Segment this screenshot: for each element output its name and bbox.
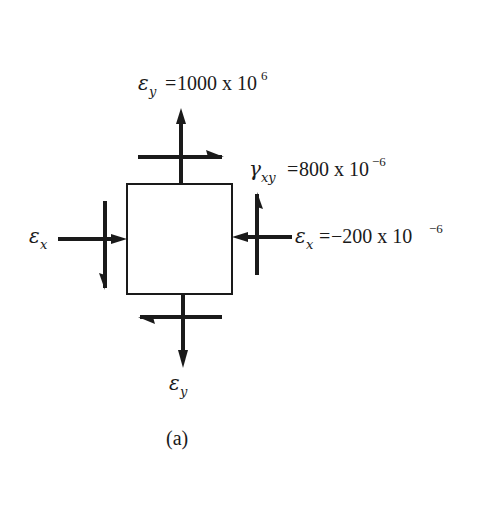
subscript-x: x <box>40 237 48 252</box>
label-epsilon-y-bottom: ε y <box>169 371 188 399</box>
label-epsilon-y-top: ε y = 1000 x 10 6 <box>138 68 268 99</box>
top-value: 1000 x 10 <box>177 72 257 94</box>
top-exponent: 6 <box>261 68 268 83</box>
shear-arrow-left-icon <box>138 317 222 324</box>
right-exponent: −6 <box>429 221 443 236</box>
strain-element-diagram: ε y = 1000 x 10 6 γ xy = 800 x 10 −6 ε x… <box>0 0 477 523</box>
subscript-y: y <box>179 384 188 399</box>
right-value: −200 x 10 <box>331 225 412 247</box>
figure-caption: (a) <box>166 427 188 450</box>
shear-arrow-up-icon <box>257 192 263 275</box>
epsilon-symbol: ε <box>295 224 306 248</box>
arrow-down-icon <box>178 294 188 368</box>
subscript-x: x <box>306 237 314 252</box>
shear-exponent: −6 <box>372 154 386 169</box>
label-gamma-xy: γ xy = 800 x 10 −6 <box>249 154 386 185</box>
strain-element-square <box>127 184 232 294</box>
gamma-symbol: γ <box>249 157 261 181</box>
subscript-y: y <box>148 84 157 99</box>
epsilon-symbol: ε <box>29 224 40 248</box>
arrow-right-icon <box>58 234 127 244</box>
label-epsilon-x-right: ε x = −200 x 10 −6 <box>295 221 443 252</box>
shear-value: 800 x 10 <box>299 158 369 180</box>
subscript-xy: xy <box>261 170 276 185</box>
arrow-up-icon <box>176 108 186 184</box>
arrow-left-icon <box>232 232 292 242</box>
label-epsilon-x-left: ε x <box>29 224 48 252</box>
epsilon-symbol: ε <box>169 371 180 395</box>
epsilon-symbol: ε <box>138 71 149 95</box>
shear-arrow-down-icon <box>99 201 105 290</box>
